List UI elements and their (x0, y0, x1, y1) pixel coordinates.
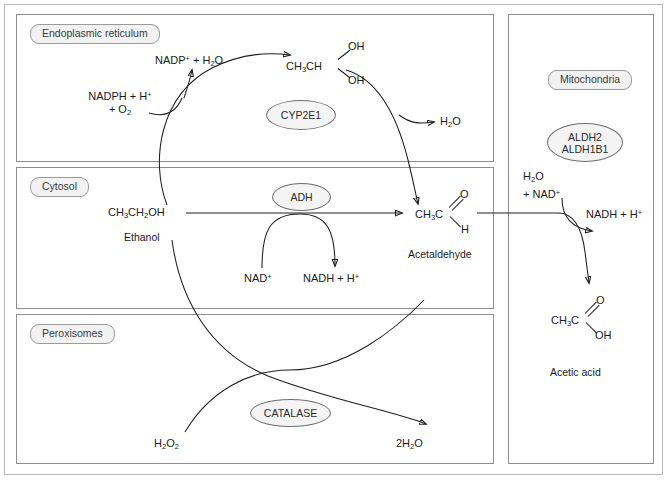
cytosol-cofactor-output: NADH + H+ (303, 270, 359, 285)
acetaldehyde-core: CH3C (415, 208, 443, 222)
acetaldehyde-hydrogen: H (461, 223, 469, 235)
er-cofactor-input-line2: + O2 (109, 103, 131, 115)
mito-cofactor-input: H2O + NAD+ (523, 170, 560, 201)
mito-cofactor-input-line2: + NAD+ (523, 188, 560, 200)
label-acetic-acid: Acetic acid (550, 366, 601, 378)
arrow-water-out-er (399, 115, 434, 123)
molecule-water-peroxisome: 2H2O (396, 437, 423, 453)
molecule-acetic-acid: CH3C O OH (551, 300, 631, 348)
molecule-ethanol: CH3CH2OH (108, 206, 165, 222)
er-cofactor-input: NADPH + H+ + O2 (74, 88, 166, 119)
er-water-output: H2O (440, 115, 461, 131)
arrow-nadp-out (184, 70, 192, 98)
arrow-nad-couple (262, 214, 335, 268)
label-ethanol: Ethanol (124, 231, 160, 243)
mito-cofactor-output: NADH + H+ (586, 206, 642, 221)
er-cofactor-output-nadp: NADP (155, 54, 186, 66)
arrow-ethanol-to-er (159, 54, 290, 205)
er-cofactor-output: NADP+ + H2O (155, 52, 223, 70)
er-cofactor-input-line1: NADPH + H+ (88, 90, 151, 102)
diagram-canvas: Endoplasmic reticulum Cytosol Peroxisome… (0, 0, 671, 483)
molecule-acetaldehyde: CH3C O H (415, 196, 485, 240)
acetic-acid-oxygen: O (596, 294, 605, 306)
diol-core: CH3CH (286, 60, 322, 74)
cytosol-cofactor-input: NAD+ (244, 270, 272, 285)
molecule-hydrogen-peroxide: H2O2 (154, 437, 179, 453)
acetaldehyde-h-bond (450, 216, 461, 227)
mito-cofactor-input-line1: H2O (523, 170, 544, 182)
acetic-acid-hydroxyl: OH (595, 329, 612, 341)
acetic-acid-core: CH3C (551, 314, 579, 328)
diol-oh-bottom: OH (348, 74, 365, 86)
label-acetaldehyde: Acetaldehyde (408, 248, 472, 260)
molecule-acetaldehyde-hydrate: CH3CH OH OH (286, 46, 376, 94)
diol-oh-top: OH (348, 40, 365, 52)
acetaldehyde-oxygen: O (460, 188, 469, 200)
